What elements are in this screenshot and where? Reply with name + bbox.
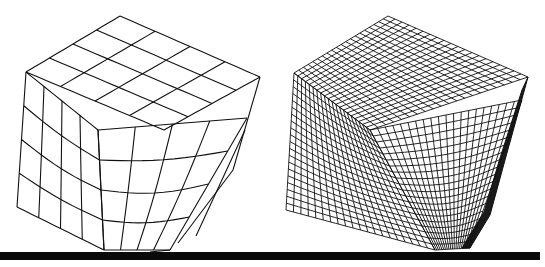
front-face-gridline-u: [408, 123, 444, 250]
figure-stage: [0, 0, 545, 267]
front-face-gridline-u: [470, 100, 522, 248]
fine-mesh-cube-diagram: [0, 0, 545, 267]
rigid-floor-bar: [0, 252, 540, 260]
front-face-gridline-u: [454, 114, 455, 249]
front-face-gridline-u: [385, 127, 438, 250]
front-face-gridline-u: [446, 115, 453, 249]
